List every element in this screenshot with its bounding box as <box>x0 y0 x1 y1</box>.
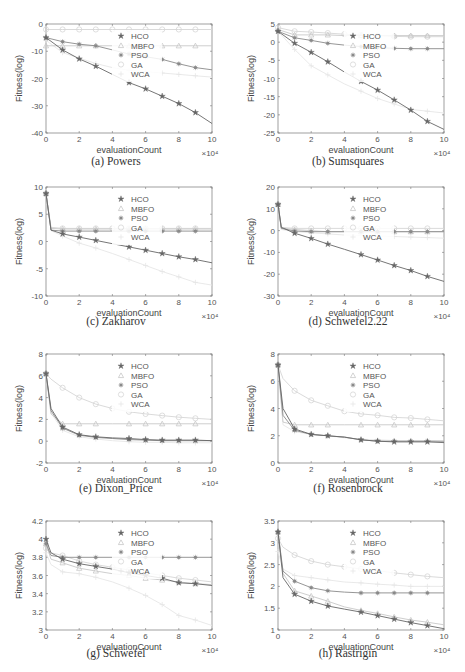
y-tick-label: -30 <box>263 292 275 301</box>
asterisk-marker <box>176 229 181 234</box>
legend-asterisk-icon <box>350 549 355 554</box>
x-tick-label: 8 <box>409 298 414 307</box>
legend-label-wca: WCA <box>131 70 150 79</box>
x-tick-label: 10 <box>208 632 217 641</box>
legend-label-wca: WCA <box>363 70 382 79</box>
y-tick-label: 0 <box>39 238 44 247</box>
x-tick-label: 0 <box>44 465 49 474</box>
x-tick-label: 2 <box>309 298 314 307</box>
x-tick-label: 2 <box>309 465 314 474</box>
legend-label-pso: PSO <box>363 214 380 223</box>
x-tick-label: 10 <box>208 465 217 474</box>
x-tick-label: 4 <box>110 298 115 307</box>
caption-dixon-price: (e) Dixon_Price <box>0 482 232 494</box>
asterisk-marker <box>93 43 98 48</box>
legend: HCOMBFOPSOGAWCA <box>344 360 394 412</box>
legend-label-pso: PSO <box>131 548 148 557</box>
asterisk-marker <box>193 229 198 234</box>
legend-label-mbfo: MBFO <box>131 42 154 51</box>
x-tick-label: 0 <box>276 298 281 307</box>
asterisk-marker <box>375 590 380 595</box>
asterisk-marker <box>325 229 330 234</box>
legend-label-hco: HCO <box>363 362 381 371</box>
caption-schwefel: (g) Schwefel <box>0 647 232 659</box>
x-tick-label: 6 <box>375 465 380 474</box>
legend-label-mbfo: MBFO <box>131 539 154 548</box>
chart-rosenbrock: 024681086420evaluationCount×10⁴Fitness(l… <box>232 330 465 490</box>
x-tick-label: 2 <box>309 632 314 641</box>
legend-asterisk-icon <box>350 215 355 220</box>
chart-sumsquares: 024681050-5-10-15-20-25evaluationCount×1… <box>232 0 465 160</box>
asterisk-marker <box>77 555 82 560</box>
x-tick-label: 4 <box>342 632 347 641</box>
asterisk-marker <box>358 590 363 595</box>
legend-asterisk-icon <box>350 382 355 387</box>
asterisk-marker <box>193 555 198 560</box>
legend-label-mbfo: MBFO <box>363 42 386 51</box>
y-tick-label: 5 <box>271 20 276 29</box>
asterisk-marker <box>408 229 413 234</box>
y-tick-label: 0 <box>39 437 44 446</box>
caption-zakharov: (c) Zakharov <box>0 315 232 327</box>
y-axis-label: Fitness(log) <box>246 55 256 102</box>
x-tick-label: 0 <box>276 465 281 474</box>
y-axis-label: Fitness(log) <box>14 385 24 432</box>
asterisk-marker <box>77 42 82 47</box>
x-tick-label: 6 <box>143 465 148 474</box>
x-tick-label: 8 <box>177 465 182 474</box>
chart-panel-schwefel: 02468104.243.83.63.43.23evaluationCount×… <box>0 497 232 665</box>
y-axis-label: Fitness(log) <box>14 552 24 599</box>
y-tick-label: 5 <box>39 210 44 219</box>
legend-asterisk-icon <box>118 52 123 57</box>
legend-label-mbfo: MBFO <box>131 372 154 381</box>
y-tick-label: 4 <box>39 535 44 544</box>
x-tick-label: 10 <box>440 135 449 144</box>
legend-label-mbfo: MBFO <box>363 372 386 381</box>
chart-panel-dixon-price: 024681086420-2evaluationCount×10⁴Fitness… <box>0 330 232 498</box>
asterisk-marker <box>408 590 413 595</box>
x-tick-label: 10 <box>440 298 449 307</box>
legend-asterisk-icon <box>350 52 355 57</box>
x-tick-label: 8 <box>409 465 414 474</box>
legend-label-wca: WCA <box>363 400 382 409</box>
chart-schwefel222: 024681020100-10-20-30evaluationCount×10⁴… <box>232 163 465 323</box>
legend-label-ga: GA <box>131 391 143 400</box>
x-tick-label: 6 <box>375 632 380 641</box>
legend-label-hco: HCO <box>131 362 149 371</box>
legend-asterisk-icon <box>118 549 123 554</box>
asterisk-marker <box>292 579 297 584</box>
legend-label-hco: HCO <box>363 32 381 41</box>
legend: HCOMBFOPSOGAWCA <box>344 193 394 245</box>
asterisk-marker <box>176 61 181 66</box>
x-tick-label: 0 <box>276 632 281 641</box>
legend-label-hco: HCO <box>131 32 149 41</box>
legend-label-wca: WCA <box>363 233 382 242</box>
legend-label-mbfo: MBFO <box>363 539 386 548</box>
x-tick-label: 4 <box>342 135 347 144</box>
x-tick-label: 0 <box>276 135 281 144</box>
y-tick-label: -20 <box>263 111 275 120</box>
legend-label-pso: PSO <box>131 381 148 390</box>
legend-label-wca: WCA <box>131 400 150 409</box>
y-axis-label: Fitness(log) <box>14 55 24 102</box>
y-tick-label: 4 <box>271 405 276 414</box>
x-tick-label: 0 <box>44 135 49 144</box>
y-axis-label: Fitness(log) <box>246 218 256 265</box>
y-tick-label: -10 <box>31 292 43 301</box>
legend-label-hco: HCO <box>131 529 149 538</box>
asterisk-marker <box>93 555 98 560</box>
asterisk-marker <box>93 229 98 234</box>
y-tick-label: -30 <box>31 102 43 111</box>
y-tick-label: -10 <box>263 248 275 257</box>
x-tick-label: 10 <box>440 632 449 641</box>
x-tick-label: 10 <box>440 465 449 474</box>
y-tick-label: 6 <box>39 372 44 381</box>
y-tick-label: -10 <box>263 75 275 84</box>
legend-label-hco: HCO <box>363 195 381 204</box>
asterisk-marker <box>425 229 430 234</box>
y-tick-label: 1 <box>271 626 276 635</box>
asterisk-marker <box>309 38 314 43</box>
asterisk-marker <box>325 41 330 46</box>
legend-label-ga: GA <box>131 224 143 233</box>
legend-label-pso: PSO <box>131 51 148 60</box>
